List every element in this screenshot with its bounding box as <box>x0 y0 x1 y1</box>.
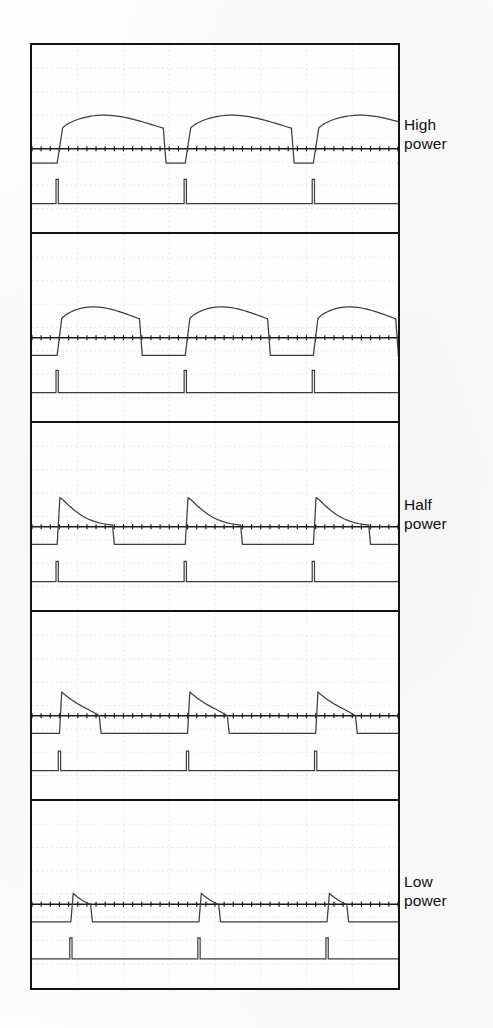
oscilloscope-panel-stack <box>30 43 400 990</box>
label-half-power-line2: power <box>404 514 493 533</box>
label-half-power-line1: Half <box>404 495 493 514</box>
label-low-power-line2: power <box>404 891 493 910</box>
label-high-power: High power <box>404 115 493 153</box>
panel-labels: High power Half power Low power <box>404 0 493 1028</box>
label-high-power-line1: High <box>404 115 493 134</box>
scope-panel-2 <box>32 234 398 423</box>
scope-panel-4 <box>32 612 398 801</box>
label-half-power: Half power <box>404 495 493 533</box>
scope-panel-high-power <box>32 45 398 234</box>
label-high-power-line2: power <box>404 134 493 153</box>
scope-panel-low-power <box>32 801 398 987</box>
label-low-power-line1: Low <box>404 872 493 891</box>
label-low-power: Low power <box>404 872 493 910</box>
scope-panel-half-power <box>32 423 398 612</box>
